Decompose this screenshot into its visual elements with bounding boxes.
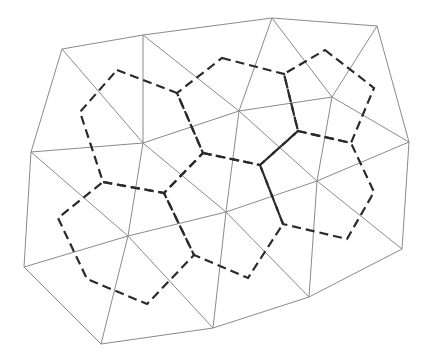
mesh-edge-I-N [317, 142, 409, 181]
mesh-edge-H-O [226, 111, 239, 212]
mesh-edge-D-O [143, 143, 226, 212]
mesh-edge-J-L [101, 236, 128, 344]
mesh-edge-P-M [309, 249, 402, 297]
mesh-edge-N-P [317, 181, 402, 249]
dual-cell-5 [164, 153, 283, 278]
mesh-edge-J-O [128, 212, 226, 236]
mesh-edge-C-A [31, 49, 62, 152]
mesh-edge-C-D [31, 143, 143, 152]
mesh-edge-K-C [24, 152, 31, 267]
mesh-edge-H-G [239, 97, 332, 111]
mesh-edge-M-Q [213, 297, 309, 328]
mesh-edge-E-G [272, 18, 332, 97]
mesh-edge-D-J [128, 143, 143, 236]
mesh-edge-G-I [332, 97, 409, 142]
mesh-edge-C-J [31, 152, 128, 236]
mesh-edge-O-Q [213, 212, 226, 328]
triangle-mesh [24, 18, 409, 344]
mesh-edge-I-P [402, 142, 409, 249]
mesh-edge-J-Q [128, 236, 213, 328]
mesh-edge-H-N [239, 111, 317, 181]
mesh-edge-E-F [272, 18, 377, 26]
mesh-edge-O-M [226, 212, 309, 297]
mesh-edge-L-K [24, 267, 101, 344]
mesh-edge-K-J [24, 236, 128, 267]
mesh-edge-Q-L [101, 328, 213, 344]
mesh-edge-F-I [377, 26, 409, 142]
mesh-edge-B-H [143, 35, 239, 111]
mesh-edge-A-B [62, 35, 143, 49]
mesh-edge-N-M [309, 181, 317, 297]
mesh-edge-B-E [143, 18, 272, 35]
dual-cell-1 [80, 70, 203, 193]
mesh-edge-A-D [62, 49, 143, 143]
mesh-diagram [0, 0, 432, 362]
